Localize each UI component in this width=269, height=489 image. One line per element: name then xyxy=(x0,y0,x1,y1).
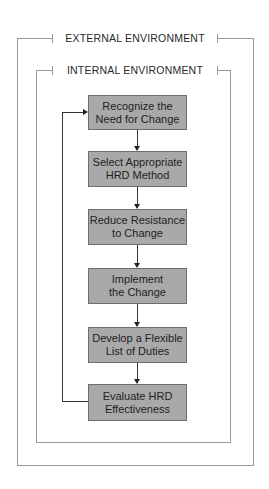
arrow-down-icon xyxy=(134,204,140,209)
feedback-top-segment xyxy=(62,112,83,113)
inner-frame-top-left xyxy=(36,70,53,71)
inner-frame-left xyxy=(36,70,37,442)
external-environment-label: EXTERNAL ENVIRONMENT xyxy=(57,32,213,44)
step-2-line-1: Select Appropriate xyxy=(93,156,183,169)
step-develop-flexible-duties: Develop a FlexibleList of Duties xyxy=(88,327,187,363)
outer-frame-right xyxy=(253,38,254,466)
arrow-down-icon xyxy=(134,263,140,268)
step-5-line-2: List of Duties xyxy=(92,345,183,358)
arrow-down-icon xyxy=(134,379,140,384)
step-4-line-1: Implement xyxy=(109,273,166,286)
feedback-vertical-segment xyxy=(62,112,63,402)
inner-frame-right xyxy=(230,70,231,443)
step-recognize-need-for-change: Recognize theNeed for Change xyxy=(88,95,187,130)
step-reduce-resistance: Reduce Resistanceto Change xyxy=(88,209,187,245)
arrow-down-icon xyxy=(134,322,140,327)
inner-frame-tick-left xyxy=(52,66,53,75)
inner-frame-bottom xyxy=(36,442,231,443)
connector-1-2 xyxy=(137,130,138,146)
outer-frame-top-right xyxy=(217,38,254,39)
connector-4-5 xyxy=(137,304,138,322)
internal-environment-label: INTERNAL ENVIRONMENT xyxy=(57,64,213,76)
step-3-line-1: Reduce Resistance xyxy=(90,214,185,227)
step-5-line-1: Develop a Flexible xyxy=(92,332,183,345)
feedback-bottom-segment xyxy=(62,401,88,402)
arrow-right-icon xyxy=(83,109,88,115)
arrow-down-icon xyxy=(134,146,140,151)
connector-2-3 xyxy=(137,187,138,204)
outer-frame-top-left xyxy=(17,38,53,39)
step-implement-change: Implementthe Change xyxy=(88,268,187,304)
step-6-line-2: Effectiveness xyxy=(103,403,173,416)
step-1-line-1: Recognize the xyxy=(96,100,180,113)
step-4-line-2: the Change xyxy=(109,286,166,299)
step-6-line-1: Evaluate HRD xyxy=(103,390,173,403)
step-2-line-2: HRD Method xyxy=(93,169,183,182)
outer-frame-left xyxy=(17,38,18,465)
step-3-line-2: to Change xyxy=(90,227,185,240)
outer-frame-bottom xyxy=(17,465,254,466)
step-select-hrd-method: Select AppropriateHRD Method xyxy=(88,151,187,187)
inner-frame-top-right xyxy=(217,70,231,71)
connector-3-4 xyxy=(137,245,138,263)
step-evaluate-hrd-effectiveness: Evaluate HRDEffectiveness xyxy=(88,384,187,421)
outer-frame-tick-left xyxy=(52,34,53,43)
step-1-line-2: Need for Change xyxy=(96,113,180,126)
connector-5-6 xyxy=(137,363,138,379)
